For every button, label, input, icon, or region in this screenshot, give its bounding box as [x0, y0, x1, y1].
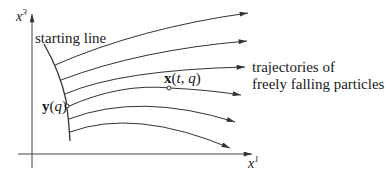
paren-close: )	[62, 98, 67, 114]
starting-line-label: starting line	[35, 31, 106, 46]
axis-superscript: 1	[254, 154, 259, 164]
vector-symbol: x	[164, 70, 172, 86]
argument-q: q	[188, 70, 196, 86]
argument: q	[55, 98, 63, 114]
start-point-label: y(q)	[42, 99, 67, 114]
trajectory-2	[61, 41, 247, 80]
trajectories-label-line1: trajectories of	[252, 60, 335, 75]
trajectory-point-label: x(t, q)	[164, 71, 201, 86]
trajectory-4	[67, 87, 241, 107]
starting-line-curve	[44, 44, 70, 141]
trajectory-5	[69, 106, 235, 122]
axis-superscript: 3	[22, 7, 27, 17]
vector-symbol: y	[42, 98, 50, 114]
trajectory-3	[65, 67, 245, 94]
free-fall-trajectories-diagram: x3 x1 starting line trajectories of free…	[0, 0, 386, 176]
paren-close: )	[196, 70, 201, 86]
trajectory-6	[70, 123, 230, 148]
horizontal-axis-label: x1	[248, 157, 259, 171]
trajectory-point-x-t-q	[167, 86, 171, 90]
vertical-axis-label: x3	[16, 10, 27, 24]
trajectories-label-line2: freely falling particles	[252, 77, 384, 92]
